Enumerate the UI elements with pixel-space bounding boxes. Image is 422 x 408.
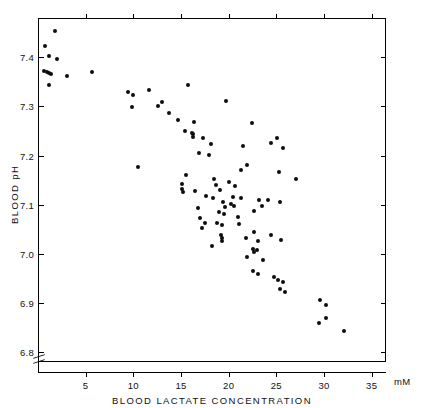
data-point <box>167 111 171 115</box>
y-tick-label-7.3: 7.3 <box>14 101 34 112</box>
data-point <box>276 278 280 282</box>
data-point <box>193 189 197 193</box>
data-point <box>223 205 227 209</box>
y-tick-label-6.9: 6.9 <box>14 298 34 309</box>
x-tick-label-15: 15 <box>175 380 186 391</box>
data-point <box>318 298 322 302</box>
plot-data-area <box>39 19 385 361</box>
data-point <box>222 212 226 216</box>
data-point <box>317 321 321 325</box>
y-tick-7.2 <box>39 156 44 157</box>
data-point <box>237 222 241 226</box>
data-point <box>255 248 259 252</box>
y-tick-7.4 <box>39 57 44 58</box>
data-point <box>250 121 254 125</box>
y-tick-right-7.3 <box>381 106 386 107</box>
x-axis-title: BLOOD LACTATE CONCENTRATION <box>112 395 312 406</box>
data-point <box>257 198 261 202</box>
data-point <box>65 74 69 78</box>
y-tick-label-6.8: 6.8 <box>14 347 34 358</box>
data-point <box>176 118 180 122</box>
data-point <box>261 258 265 262</box>
data-point <box>55 57 59 61</box>
x-tick-top-10 <box>133 14 134 19</box>
y-tick-right-6.8 <box>381 352 386 353</box>
plot-frame <box>38 18 386 362</box>
data-point <box>260 204 264 208</box>
data-point <box>215 221 219 225</box>
data-point <box>184 173 188 177</box>
data-point <box>220 239 224 243</box>
x-tick-label-35: 35 <box>366 380 377 391</box>
data-point <box>231 195 235 199</box>
data-point <box>266 198 270 202</box>
data-point <box>191 135 195 139</box>
x-tick-label-10: 10 <box>128 380 139 391</box>
y-axis-title: BLOOD pH <box>9 165 20 224</box>
x-tick-top-25 <box>276 14 277 19</box>
data-point <box>283 290 287 294</box>
data-point <box>200 226 204 230</box>
x-tick-top-35 <box>372 14 373 19</box>
x-tick-label-5: 5 <box>83 380 89 391</box>
data-point <box>210 244 214 248</box>
data-point <box>203 221 207 225</box>
data-point <box>136 165 140 169</box>
data-point <box>241 144 245 148</box>
data-point <box>256 239 260 243</box>
x-axis-unit-label: mM <box>394 376 410 387</box>
y-tick-7 <box>39 254 44 255</box>
y-axis-break-icon <box>33 352 45 366</box>
data-point <box>252 230 256 234</box>
data-point <box>180 182 184 186</box>
data-point <box>196 206 200 210</box>
data-point <box>232 204 236 208</box>
scatter-plot-figure: 51015202530357.47.37.27.17.06.96.8 BLOOD… <box>0 0 422 408</box>
data-point <box>251 269 255 273</box>
data-point <box>269 141 273 145</box>
data-point <box>47 54 51 58</box>
data-point <box>277 170 281 174</box>
data-point <box>281 146 285 150</box>
data-point <box>201 136 205 140</box>
y-tick-6.9 <box>39 303 44 304</box>
y-tick-label-7.2: 7.2 <box>14 150 34 161</box>
data-point <box>281 280 285 284</box>
y-tick-right-7 <box>381 254 386 255</box>
data-point <box>239 196 243 200</box>
y-tick-label-7.0: 7.0 <box>14 248 34 259</box>
data-point <box>221 200 225 204</box>
data-point <box>218 188 222 192</box>
y-tick-7.3 <box>39 106 44 107</box>
data-point <box>90 70 94 74</box>
data-point <box>245 255 249 259</box>
y-tick-label-7.4: 7.4 <box>14 52 34 63</box>
data-point <box>43 44 47 48</box>
data-point <box>209 142 213 146</box>
x-tick-label-25: 25 <box>271 380 282 391</box>
data-point <box>211 196 215 200</box>
data-point <box>47 83 51 87</box>
data-point <box>207 153 211 157</box>
data-point <box>131 93 135 97</box>
data-point <box>181 190 185 194</box>
data-point <box>186 83 190 87</box>
data-point <box>278 200 282 204</box>
data-point <box>252 209 256 213</box>
data-point <box>212 177 216 181</box>
x-tick-top-20 <box>229 14 230 19</box>
data-point <box>130 105 134 109</box>
x-tick-top-5 <box>86 14 87 19</box>
data-point <box>49 72 53 76</box>
data-point <box>233 184 237 188</box>
data-point <box>197 151 201 155</box>
y-tick-7.1 <box>39 205 44 206</box>
x-tick-label-30: 30 <box>318 380 329 391</box>
data-point <box>279 238 283 242</box>
data-point <box>192 120 196 124</box>
data-point <box>156 104 160 108</box>
data-point <box>256 272 260 276</box>
data-point <box>236 215 240 219</box>
data-point <box>324 303 328 307</box>
data-point <box>217 210 221 214</box>
